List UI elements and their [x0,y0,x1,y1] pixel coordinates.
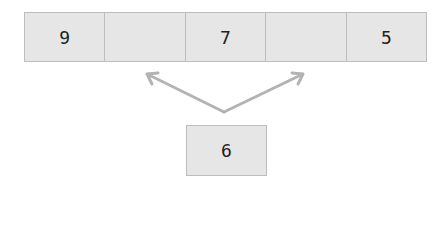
left-arrow-icon [147,73,224,112]
element-to-insert: 6 [186,125,267,176]
right-arrow-icon [224,73,303,112]
